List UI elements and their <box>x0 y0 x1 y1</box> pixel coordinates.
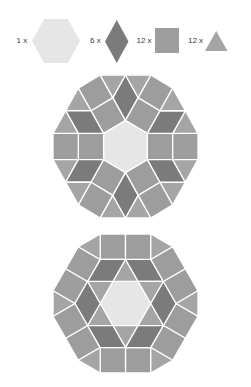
triangle-piece-icon <box>205 31 228 51</box>
rhombus-count-label: 6 x <box>90 36 101 46</box>
dodecagon-dissection-1 <box>53 75 198 218</box>
square-count-label: 12 x <box>137 36 152 46</box>
tile-square <box>78 133 103 159</box>
hexagon-piece-icon <box>32 19 80 63</box>
tiling-puzzle-diagram: 1 x 6 x 12 x 12 x <box>0 0 251 387</box>
dodecagon-dissection-2 <box>53 234 198 373</box>
rhombus-piece-icon <box>105 20 129 63</box>
hexagon-shape <box>32 19 80 63</box>
tile-square <box>147 133 172 159</box>
hexagon-count-label: 1 x <box>17 36 28 46</box>
tile-square <box>125 348 150 373</box>
tile-square <box>53 133 78 159</box>
triangle-shape <box>205 31 228 51</box>
triangle-count-label: 12 x <box>188 36 203 46</box>
tile-square <box>100 234 125 259</box>
rhombus-shape <box>105 20 129 63</box>
square-shape <box>155 28 179 53</box>
tile-square <box>172 133 197 159</box>
tile-square <box>125 234 150 259</box>
tile-square <box>100 348 125 373</box>
square-piece-icon <box>155 28 179 53</box>
